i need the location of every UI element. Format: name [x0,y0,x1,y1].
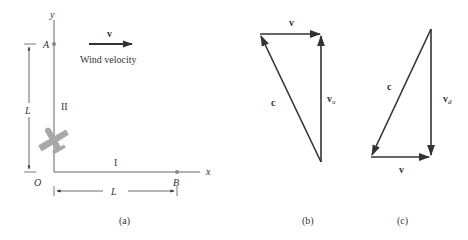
vector-c [372,29,431,155]
point-b-label: B [173,177,179,188]
origin-label: O [34,177,41,188]
figure-c: c vd v (c) [371,29,452,227]
caption-c: (c) [397,215,408,227]
caption-b: (b) [302,215,314,227]
vector-vd-label: vd [443,93,452,106]
vector-v-label: v [289,17,294,28]
caption-a: (a) [119,215,130,227]
diagram-canvas: y x O A B II I L L v [0,0,468,240]
leg-II-label: II [61,101,68,112]
figure-a: y x O A B II I L L v [24,9,211,227]
vector-vu-label: vu [327,93,336,106]
wind-vector-label: v [107,28,112,39]
horizontal-dimension-label: L [110,186,117,197]
vector-v-label: v [399,164,404,175]
wind-caption: Wind velocity [80,54,137,65]
vector-c-label: c [271,97,276,108]
wind-velocity: v Wind velocity [80,28,137,65]
vertical-dimension-label: L [24,105,31,116]
horizontal-dimension: L [54,186,177,197]
figure-b: v c vu (b) [260,17,336,227]
vector-c [261,36,321,162]
vertical-dimension: L [24,44,36,172]
point-b [175,170,179,174]
vector-c-label: c [387,81,392,92]
y-axis-label: y [49,9,55,20]
x-axis-label: x [205,166,211,177]
leg-I-label: I [114,157,117,168]
point-a-label: A [42,39,50,50]
point-a [52,42,56,46]
airplane-icon [33,120,74,159]
